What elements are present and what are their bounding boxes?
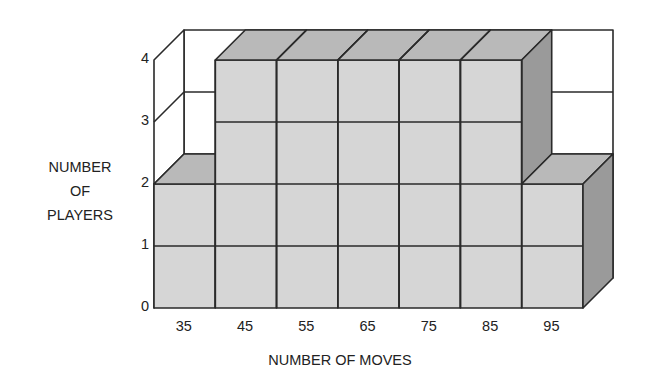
y-tick-label: 3 <box>141 112 149 128</box>
y-axis-title-line-2: OF <box>30 179 130 203</box>
x-tick-label: 45 <box>237 318 253 334</box>
y-tick-label: 0 <box>141 298 149 314</box>
y-axis-title-line-1: NUMBER <box>30 155 130 179</box>
y-tick-label: 1 <box>141 236 149 252</box>
x-tick-label: 85 <box>482 318 498 334</box>
y-tick-label: 4 <box>141 50 149 66</box>
x-tick-label: 55 <box>298 318 314 334</box>
y-axis-title-line-3: PLAYERS <box>30 203 130 227</box>
x-tick-label: 35 <box>176 318 192 334</box>
y-tick-label: 2 <box>141 174 149 190</box>
x-tick-label: 95 <box>543 318 559 334</box>
x-axis-title: NUMBER OF MOVES <box>240 352 440 368</box>
y-axis-title: NUMBER OF PLAYERS <box>30 155 130 227</box>
x-tick-label: 75 <box>421 318 437 334</box>
x-tick-label: 65 <box>360 318 376 334</box>
